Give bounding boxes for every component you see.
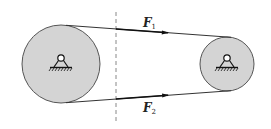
belt-drive-diagram: F1 F2 xyxy=(0,0,271,129)
force-f2-label: F2 xyxy=(142,101,156,116)
force-f2-arrowhead xyxy=(162,93,169,97)
small-pulley xyxy=(200,37,254,91)
force-f1-segment xyxy=(116,29,168,33)
force-f1-arrowhead xyxy=(162,31,169,35)
large-pulley xyxy=(22,25,100,103)
force-f1-label: F1 xyxy=(142,16,156,31)
force-f2-segment xyxy=(116,95,168,99)
